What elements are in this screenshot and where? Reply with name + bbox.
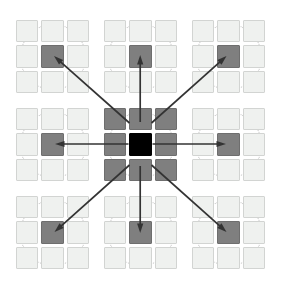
cell-top-center-4-shaded (129, 45, 151, 67)
cell-bottom-center-7-light (129, 247, 151, 269)
block-top-center (104, 20, 177, 93)
cell-top-right-0-light (192, 20, 214, 42)
cell-middle-right-6-light (192, 159, 214, 181)
block-middle-right (192, 108, 265, 181)
cell-bottom-center-6-light (104, 247, 126, 269)
cell-bottom-left-1-light (41, 196, 63, 218)
cell-bottom-left-2-light (67, 196, 89, 218)
cell-top-right-2-light (243, 20, 265, 42)
block-bottom-right (192, 196, 265, 269)
cell-center-1-shaded (129, 108, 151, 130)
cell-middle-right-4-shaded (217, 133, 239, 155)
cell-middle-left-4-shaded (41, 133, 63, 155)
block-top-left (16, 20, 89, 93)
cell-top-left-6-light (16, 71, 38, 93)
cell-top-center-5-light (155, 45, 177, 67)
cell-top-center-6-light (104, 71, 126, 93)
cell-bottom-left-7-light (41, 247, 63, 269)
cell-bottom-right-5-light (243, 221, 265, 243)
cell-middle-left-0-light (16, 108, 38, 130)
cell-top-left-3-light (16, 45, 38, 67)
cell-center-4-black (129, 133, 151, 155)
cell-bottom-left-8-light (67, 247, 89, 269)
block-bottom-left (16, 196, 89, 269)
cell-middle-left-2-light (67, 108, 89, 130)
block-top-right (192, 20, 265, 93)
cell-middle-right-2-light (243, 108, 265, 130)
cell-top-left-7-light (41, 71, 63, 93)
cell-top-left-8-light (67, 71, 89, 93)
cell-center-6-shaded (104, 159, 126, 181)
cell-center-0-shaded (104, 108, 126, 130)
cell-middle-left-1-light (41, 108, 63, 130)
cell-bottom-right-7-light (217, 247, 239, 269)
cell-bottom-center-1-light (129, 196, 151, 218)
cell-center-5-shaded (155, 133, 177, 155)
cell-bottom-center-0-light (104, 196, 126, 218)
block-center (104, 108, 177, 181)
cell-middle-right-0-light (192, 108, 214, 130)
cell-top-center-1-light (129, 20, 151, 42)
cell-bottom-right-4-shaded (217, 221, 239, 243)
cell-top-left-5-light (67, 45, 89, 67)
cell-middle-right-7-light (217, 159, 239, 181)
cell-bottom-center-5-light (155, 221, 177, 243)
cell-bottom-left-4-shaded (41, 221, 63, 243)
cell-top-left-4-shaded (41, 45, 63, 67)
cell-middle-left-7-light (41, 159, 63, 181)
cell-top-right-6-light (192, 71, 214, 93)
cell-bottom-right-1-light (217, 196, 239, 218)
cell-bottom-center-2-light (155, 196, 177, 218)
block-grid-board (0, 0, 281, 295)
cell-top-center-0-light (104, 20, 126, 42)
cell-top-left-0-light (16, 20, 38, 42)
cell-middle-right-5-light (243, 133, 265, 155)
cell-top-right-1-light (217, 20, 239, 42)
cell-center-2-shaded (155, 108, 177, 130)
cell-top-right-5-light (243, 45, 265, 67)
cell-middle-left-3-light (16, 133, 38, 155)
cell-middle-right-3-light (192, 133, 214, 155)
cell-top-right-4-shaded (217, 45, 239, 67)
cell-middle-left-6-light (16, 159, 38, 181)
cell-middle-right-8-light (243, 159, 265, 181)
figure-root (0, 0, 281, 295)
cell-bottom-right-2-light (243, 196, 265, 218)
cell-bottom-left-6-light (16, 247, 38, 269)
cell-bottom-center-4-shaded (129, 221, 151, 243)
cell-bottom-left-3-light (16, 221, 38, 243)
cell-middle-left-8-light (67, 159, 89, 181)
cell-top-center-2-light (155, 20, 177, 42)
cell-top-right-7-light (217, 71, 239, 93)
cell-bottom-right-0-light (192, 196, 214, 218)
cell-top-right-3-light (192, 45, 214, 67)
cell-top-left-1-light (41, 20, 63, 42)
cell-top-center-3-light (104, 45, 126, 67)
cell-bottom-right-8-light (243, 247, 265, 269)
cell-top-right-8-light (243, 71, 265, 93)
cell-center-3-shaded (104, 133, 126, 155)
cell-center-7-shaded (129, 159, 151, 181)
cell-bottom-center-3-light (104, 221, 126, 243)
cell-bottom-left-0-light (16, 196, 38, 218)
cell-top-left-2-light (67, 20, 89, 42)
cell-center-8-shaded (155, 159, 177, 181)
cell-top-center-7-light (129, 71, 151, 93)
block-bottom-center (104, 196, 177, 269)
cell-bottom-center-8-light (155, 247, 177, 269)
cell-middle-right-1-light (217, 108, 239, 130)
cell-bottom-left-5-light (67, 221, 89, 243)
cell-middle-left-5-light (67, 133, 89, 155)
cell-top-center-8-light (155, 71, 177, 93)
block-middle-left (16, 108, 89, 181)
cell-bottom-right-6-light (192, 247, 214, 269)
cell-bottom-right-3-light (192, 221, 214, 243)
